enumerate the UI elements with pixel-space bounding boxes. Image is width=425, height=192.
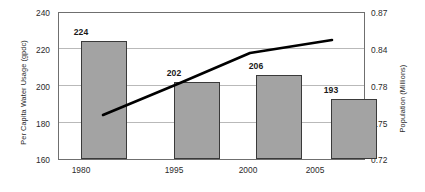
left-tick-220: 220	[10, 45, 50, 55]
left-tick-180: 180	[10, 119, 50, 129]
right-tick-078: 0.78	[371, 82, 411, 92]
bar-2000	[256, 75, 302, 159]
bar-1995	[174, 82, 220, 159]
right-tick-075: 0.75	[371, 119, 411, 129]
left-tick-200: 200	[10, 82, 50, 92]
x-tick-2000: 2000	[218, 165, 278, 175]
x-tick-1980: 1980	[51, 165, 111, 175]
x-tick-2005: 2005	[285, 165, 345, 175]
water-usage-population-chart: Per Capita Water Usage (gpdc) Population…	[0, 0, 425, 192]
right-tick-072: 0.72	[371, 155, 411, 165]
right-tick-087: 0.87	[371, 8, 411, 18]
bar-label-2000: 206	[226, 61, 286, 71]
left-tick-240: 240	[10, 8, 50, 18]
bar-1980	[81, 41, 127, 159]
right-tick-084: 0.84	[371, 45, 411, 55]
bar-2005	[331, 99, 377, 159]
left-tick-160: 160	[10, 155, 50, 165]
bar-label-1995: 202	[144, 68, 204, 78]
right-axis-title: Population (Millions)	[398, 39, 407, 159]
x-tick-1995: 1995	[144, 165, 204, 175]
bar-label-1980: 224	[51, 27, 111, 37]
bar-label-2005: 193	[301, 85, 361, 95]
